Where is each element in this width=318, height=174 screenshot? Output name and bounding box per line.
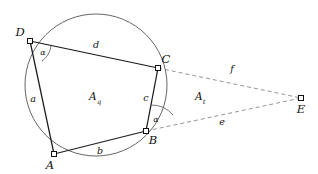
vertex-marker-E (299, 96, 304, 101)
area-label-triangle: At (195, 91, 205, 104)
vertex-label-B: B (149, 135, 157, 147)
side-label-e: e (219, 117, 225, 127)
side-label-f: f (230, 64, 234, 74)
vertex-marker-C (156, 66, 161, 71)
vertex-label-D: D (15, 27, 24, 39)
area-symbol-quadrilateral: A (89, 90, 97, 102)
area-subscript-quadrilateral: q (97, 99, 101, 107)
vertex-marker-D (28, 39, 33, 44)
vertex-label-C: C (162, 54, 171, 66)
circumcircle (25, 14, 167, 156)
side-label-b: b (97, 146, 103, 156)
angle-label-alpha-B: α (153, 116, 158, 124)
side-label-c: c (143, 93, 148, 103)
vertex-label-A: A (46, 160, 54, 172)
geometry-figure: D C A B E a b c d e f α α Aq At (0, 0, 318, 174)
area-symbol-triangle: A (195, 90, 203, 102)
vertex-label-E: E (297, 104, 305, 116)
side-label-d: d (93, 40, 99, 50)
side-label-a: a (30, 94, 36, 104)
area-label-quadrilateral: Aq (89, 91, 101, 104)
vertex-marker-A (52, 152, 57, 157)
vertex-marker-B (144, 129, 149, 134)
figure-canvas (0, 0, 318, 174)
angle-label-alpha-D: α (40, 49, 45, 57)
